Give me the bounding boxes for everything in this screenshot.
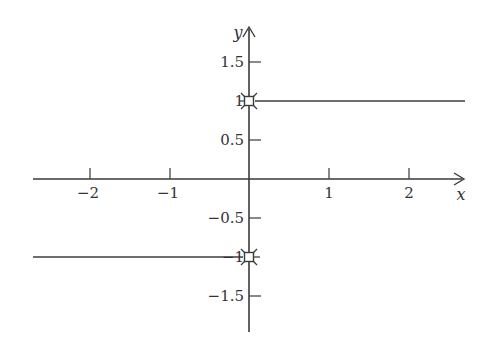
open-point-square-icon [245,253,254,262]
x-tick-label: −1 [157,184,179,202]
y-tick-label: −1 [222,248,244,266]
x-tick-label: 1 [324,184,334,202]
step-function-chart: −2 −1 1 2 x 1.5 1 0.5 −0.5 −1 −1.5 y [0,0,485,354]
y-tick-label: −0.5 [208,209,244,227]
open-point-square-icon [245,97,254,106]
x-tick-label: 2 [404,184,414,202]
y-tick-label: 1.5 [220,53,244,71]
open-point-marker-bottom [241,249,260,265]
y-axis: 1.5 1 0.5 −0.5 −1 −1.5 y [208,23,261,332]
x-tick-label: −2 [77,184,99,202]
y-tick-label: −1.5 [208,287,244,305]
y-axis-label: y [232,23,243,42]
y-tick-label: 0.5 [220,131,244,149]
x-axis-label: x [456,185,465,204]
